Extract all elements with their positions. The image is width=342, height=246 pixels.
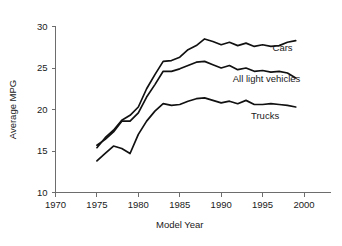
mpg-line-chart: 1015202530 1970197519801985199019952000 … [0,0,342,246]
x-tick-label: 1975 [86,199,107,210]
series-label-cars: Cars [273,42,293,53]
series-label-trucks: Trucks [251,110,279,121]
y-axis-title: Average MPG [7,80,18,140]
x-tick-label: 2000 [293,199,314,210]
series-lines [97,39,296,161]
x-tick-label: 1980 [128,199,149,210]
x-axis-ticks: 1970197519801985199019952000 [45,193,315,210]
x-axis-title: Model Year [156,219,204,230]
y-tick-label: 20 [37,104,48,115]
y-axis-ticks: 1015202530 [37,21,56,198]
y-tick-label: 15 [37,145,48,156]
x-tick-label: 1970 [45,199,66,210]
series-label-all-light-vehicles: All light vehicles [233,73,301,84]
y-tick-label: 25 [37,62,48,73]
y-tick-label: 30 [37,21,48,32]
series-line-trucks [97,98,296,161]
y-tick-label: 10 [37,187,48,198]
series-inline-labels: CarsAll light vehiclesTrucks [233,42,301,121]
x-tick-label: 1995 [252,199,273,210]
x-tick-label: 1985 [169,199,190,210]
chart-figure: 1015202530 1970197519801985199019952000 … [0,0,342,246]
x-tick-label: 1990 [211,199,232,210]
series-line-cars [97,39,296,148]
